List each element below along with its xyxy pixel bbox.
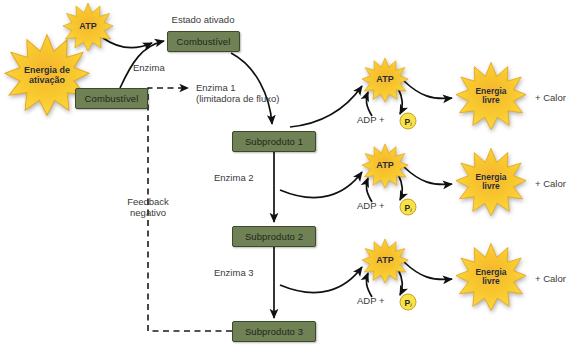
star-label: Energia de ativação	[24, 66, 70, 85]
label-feedback-negativo: Feedback negativo	[127, 196, 169, 218]
box-label: Combustível	[85, 93, 139, 104]
pi-subscript: i	[410, 120, 411, 126]
star-energia-livre-2: Energia livre	[453, 147, 529, 217]
star-label: Energia livre	[475, 268, 506, 286]
star-atp-3: ATP	[360, 238, 410, 284]
star-energia-livre-1: Energia livre	[453, 61, 529, 131]
label-enzima-3: Enzima 3	[214, 267, 254, 278]
arrow-reaction2-to-atp	[280, 172, 362, 198]
star-label: ATP	[79, 22, 96, 32]
box-label: Subproduto 3	[245, 326, 303, 337]
diagram-canvas: Energia de ativação ATP ATP ATP AT	[0, 0, 578, 348]
box-label: Subproduto 2	[245, 231, 303, 242]
star-label: Energia livre	[475, 87, 506, 105]
star-atp-1: ATP	[360, 57, 410, 103]
box-subproduto-2[interactable]: Subproduto 2	[232, 226, 316, 247]
label-calor-1: + Calor	[535, 92, 566, 103]
star-label: Energia livre	[475, 173, 506, 191]
label-adp-3: ADP +	[357, 295, 385, 306]
box-subproduto-1[interactable]: Subproduto 1	[232, 131, 316, 152]
arrow-atp2-to-energia-livre	[404, 167, 452, 184]
arrow-reaction3-to-atp	[280, 267, 362, 293]
pi-subscript: i	[410, 206, 411, 212]
label-enzima-1-line2: (limitadora de fluxo)	[196, 93, 279, 104]
label-enzima: Enzima	[133, 62, 165, 73]
arrow-atp3-to-energia-livre	[404, 262, 452, 279]
box-label: Combustível	[177, 36, 231, 47]
label-enzima-1: Enzima 1 (limitadora de fluxo)	[196, 82, 279, 104]
star-label: ATP	[376, 161, 393, 171]
label-adp-2: ADP +	[357, 200, 385, 211]
pi-circle-1: Pi	[400, 113, 417, 130]
pi-circle-2: Pi	[400, 199, 417, 216]
arrow-reaction1-to-atp	[290, 86, 362, 127]
label-enzima-2: Enzima 2	[214, 172, 254, 183]
label-calor-2: + Calor	[535, 178, 566, 189]
label-negativo-word: negativo	[127, 207, 169, 218]
pi-circle-3: Pi	[400, 294, 417, 311]
label-calor-3: + Calor	[535, 273, 566, 284]
label-estado-ativado: Estado ativado	[172, 14, 235, 25]
star-label: ATP	[376, 256, 393, 266]
label-enzima-1-line1: Enzima 1	[196, 82, 279, 93]
label-feedback-word: Feedback	[127, 196, 169, 207]
arrow-atp1-to-energia-livre	[404, 81, 452, 98]
box-combustivel-ativado[interactable]: Combustível	[167, 31, 240, 52]
star-energia-livre-3: Energia livre	[453, 242, 529, 312]
box-combustivel-inicial[interactable]: Combustível	[75, 88, 148, 109]
box-label: Subproduto 1	[245, 136, 303, 147]
pi-subscript: i	[410, 301, 411, 307]
star-label: ATP	[376, 75, 393, 85]
star-atp-top: ATP	[59, 2, 117, 52]
star-atp-2: ATP	[360, 143, 410, 189]
label-adp-1: ADP +	[357, 114, 385, 125]
box-subproduto-3[interactable]: Subproduto 3	[232, 321, 316, 342]
